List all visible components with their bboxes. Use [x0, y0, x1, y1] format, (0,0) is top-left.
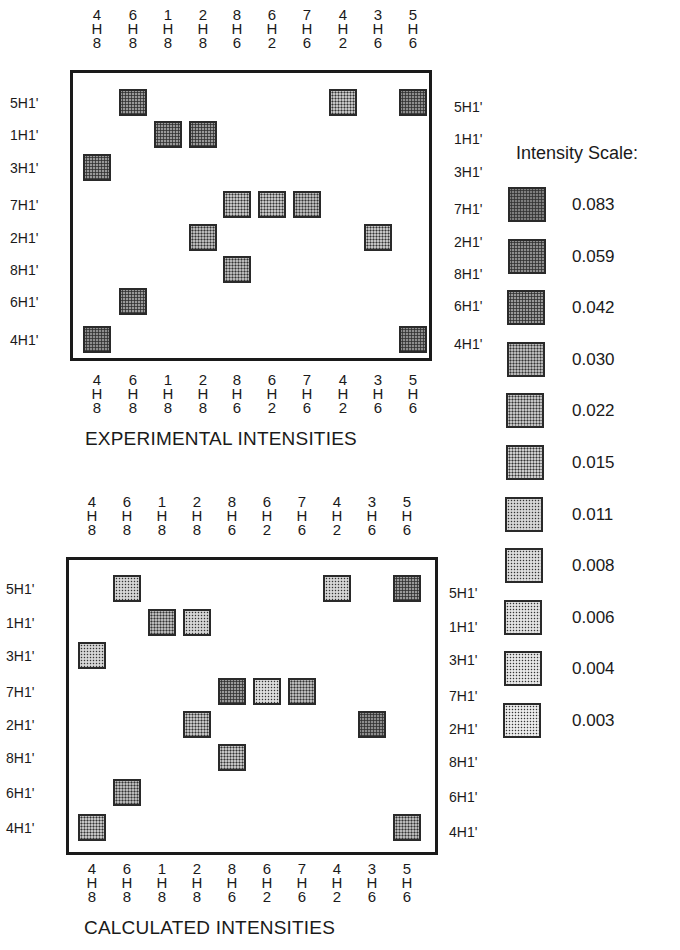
column-label: 2	[262, 35, 282, 50]
legend-value: 0.006	[572, 608, 615, 628]
heatmap-cell	[148, 609, 176, 636]
legend-value: 0.059	[572, 247, 615, 267]
legend-swatch	[506, 393, 544, 428]
legend-value: 0.011	[572, 505, 613, 525]
row-label: 4H1'	[449, 824, 477, 840]
column-label: 8	[123, 400, 143, 415]
row-label: 7H1'	[10, 197, 38, 213]
heatmap-cell	[189, 224, 217, 251]
column-label: 6	[368, 400, 388, 415]
heatmap-cell	[288, 678, 316, 705]
column-label: 8	[158, 400, 178, 415]
heatmap-cell	[329, 89, 357, 116]
heatmap-cell	[258, 191, 286, 218]
heatmap-cell	[399, 89, 427, 116]
row-label: 2H1'	[449, 721, 477, 737]
legend-swatch	[507, 290, 545, 325]
legend-value: 0.083	[572, 195, 615, 215]
row-label: 6H1'	[6, 785, 34, 801]
heatmap-cell	[183, 711, 211, 738]
column-label: 6	[292, 522, 312, 537]
column-label: 2	[333, 400, 353, 415]
column-label: 8	[123, 35, 143, 50]
heatmap-cell	[83, 154, 111, 181]
row-label: 8H1'	[454, 266, 482, 282]
column-label: 8	[187, 522, 207, 537]
row-label: 1H1'	[6, 615, 34, 631]
row-label: 8H1'	[6, 750, 34, 766]
heatmap-cell	[218, 678, 246, 705]
heatmap-cell	[358, 711, 386, 738]
column-label: 6	[368, 35, 388, 50]
column-label: 8	[152, 522, 172, 537]
row-label: 2H1'	[10, 230, 38, 246]
heatmap-cell	[364, 224, 392, 251]
column-label: 6	[292, 889, 312, 904]
row-label: 7H1'	[449, 688, 477, 704]
legend-value: 0.015	[572, 453, 615, 473]
legend-swatch	[508, 187, 546, 222]
legend-swatch	[508, 239, 546, 274]
row-label: 3H1'	[454, 164, 482, 180]
column-label: 6	[297, 35, 317, 50]
legend-value: 0.042	[572, 298, 615, 318]
row-label: 6H1'	[449, 789, 477, 805]
column-label: 8	[193, 35, 213, 50]
heatmap-cell	[393, 575, 421, 602]
column-label: 8	[82, 522, 102, 537]
heatmap-cell	[113, 575, 141, 602]
column-label: 6	[362, 522, 382, 537]
legend-value: 0.030	[572, 350, 615, 370]
column-label: 8	[117, 889, 137, 904]
heatmap-cell	[393, 814, 421, 841]
row-label: 4H1'	[6, 820, 34, 836]
row-label: 7H1'	[454, 201, 482, 217]
legend-value: 0.004	[572, 659, 615, 679]
legend-swatch	[504, 651, 542, 686]
column-label: 8	[193, 400, 213, 415]
column-label: 6	[297, 400, 317, 415]
heatmap-cell	[119, 288, 147, 315]
column-label: 2	[257, 522, 277, 537]
heatmap-cell	[154, 121, 182, 148]
legend-swatch	[503, 703, 541, 738]
column-label: 2	[327, 522, 347, 537]
row-label: 8H1'	[449, 754, 477, 770]
column-label: 6	[222, 522, 242, 537]
heatmap-cell	[293, 191, 321, 218]
row-label: 5H1'	[454, 99, 482, 115]
row-label: 1H1'	[454, 131, 482, 147]
legend-value: 0.003	[572, 711, 615, 731]
legend-swatch	[505, 497, 543, 532]
legend-swatch	[505, 548, 543, 583]
row-label: 1H1'	[10, 127, 38, 143]
column-label: 2	[333, 35, 353, 50]
row-label: 6H1'	[10, 294, 38, 310]
row-label: 4H1'	[10, 332, 38, 348]
row-label: 2H1'	[6, 717, 34, 733]
column-label: 8	[87, 400, 107, 415]
heatmap-cell	[189, 121, 217, 148]
heatmap-cell	[113, 779, 141, 806]
column-label: 2	[327, 889, 347, 904]
legend-swatch	[507, 342, 545, 377]
row-label: 3H1'	[449, 652, 477, 668]
heatmap-cell	[253, 678, 281, 705]
legend-value: 0.022	[572, 401, 615, 421]
heatmap-cell	[323, 575, 351, 602]
column-label: 6	[403, 35, 423, 50]
row-label: 3H1'	[6, 648, 34, 664]
calculated-panel-title: CALCULATED INTENSITIES	[84, 917, 335, 939]
row-label: 5H1'	[10, 95, 38, 111]
row-label: 7H1'	[6, 684, 34, 700]
heatmap-cell	[78, 642, 106, 669]
row-label: 4H1'	[454, 336, 482, 352]
heatmap-cell	[183, 609, 211, 636]
heatmap-cell	[399, 326, 427, 353]
legend-swatch	[504, 600, 542, 635]
row-label: 5H1'	[449, 585, 477, 601]
column-label: 6	[362, 889, 382, 904]
heatmap-cell	[78, 814, 106, 841]
column-label: 8	[187, 889, 207, 904]
column-label: 8	[152, 889, 172, 904]
